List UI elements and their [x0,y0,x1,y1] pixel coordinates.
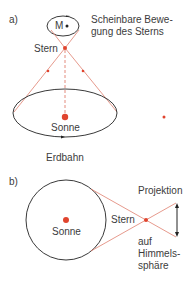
center-dot [66,25,69,28]
sightline-right-ext [65,30,79,48]
direction-marker-right [82,70,85,73]
orbit-label: Erdbahn [46,152,84,164]
projection-arrow-down-icon [175,232,179,237]
sun-dot [62,114,68,120]
panel-b-label: b) [9,176,18,188]
direction-marker-left [47,70,50,73]
sun-dot-b [63,217,69,223]
panel-a-label: a) [9,14,18,26]
star-marker [63,46,67,50]
distant-star [163,116,166,119]
projection-label: Projektion [138,185,182,197]
star-label-b: Stern [111,214,135,226]
parallax-diagram [0,0,189,282]
projection-arrow-up-icon [175,203,179,208]
celestial-label-3: sphäre [138,260,169,272]
apparent-motion-label-2: gung des Sterns [91,26,164,38]
orbit-arrow-icon [61,136,65,139]
star-label-a: Stern [34,43,58,55]
sun-label-b: Sonne [52,226,81,238]
sightline-left [14,48,65,112]
celestial-label-2: Himmels- [138,248,180,260]
sun-label-a: Sonne [51,122,80,134]
star-marker-b [144,218,148,222]
center-mark-label: M [55,20,63,32]
tangent-bottom [91,203,176,251]
apparent-motion-label-1: Scheinbare Bewe- [91,14,173,26]
sightline-right [65,48,117,112]
celestial-label-1: auf [138,236,152,248]
